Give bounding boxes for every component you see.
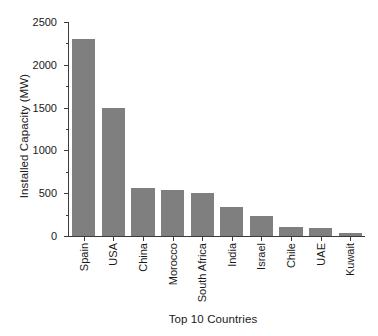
y-axis-tick: 2500 (64, 22, 68, 23)
y-axis-title: Installed Capacity (MW) (13, 29, 35, 244)
y-axis-tick: 1500 (64, 108, 68, 109)
bar (131, 188, 154, 236)
x-axis-tick-label: Spain (78, 243, 89, 271)
y-axis-tick-label: 500 (39, 187, 57, 199)
y-axis-minor-tick (66, 129, 68, 130)
x-axis-tick (291, 237, 292, 241)
y-axis-minor-tick (66, 172, 68, 173)
bar (279, 227, 302, 236)
y-axis-minor-tick (66, 215, 68, 216)
bar (250, 216, 273, 236)
x-axis-tick-label: UAE (315, 243, 326, 266)
y-axis-minor-tick (66, 43, 68, 44)
x-axis-tick (113, 237, 114, 241)
x-axis-title: Top 10 Countries (60, 313, 366, 325)
x-axis-tick-label: South Africa (197, 243, 208, 302)
y-axis-minor-tick (66, 86, 68, 87)
y-axis-tick-label: 2000 (33, 59, 57, 71)
bar (191, 193, 214, 236)
bar (72, 39, 95, 236)
bar (309, 228, 332, 236)
y-axis-tick-label: 2500 (33, 16, 57, 28)
x-axis-tick (84, 237, 85, 241)
y-axis-tick: 2000 (64, 65, 68, 66)
x-axis-tick (173, 237, 174, 241)
x-axis-tick (261, 237, 262, 241)
bar (220, 207, 243, 236)
x-axis-tick-label: Israel (256, 243, 267, 270)
x-axis-tick-label: Kuwait (345, 243, 356, 276)
x-axis-tick (350, 237, 351, 241)
bar (161, 190, 184, 236)
x-axis-tick (232, 237, 233, 241)
y-axis-tick-label: 1500 (33, 102, 57, 114)
x-axis-tick (321, 237, 322, 241)
bar (339, 233, 362, 236)
y-axis-tick: 500 (64, 193, 68, 194)
x-axis-tick-label: USA (108, 243, 119, 266)
x-axis-tick (202, 237, 203, 241)
plot-area: 05001000150020002500 SpainUSAChinaMorocc… (69, 22, 365, 236)
x-axis-tick-label: China (138, 243, 149, 272)
x-axis-tick (143, 237, 144, 241)
y-axis-tick-label: 1000 (33, 144, 57, 156)
y-axis-tick: 1000 (64, 150, 68, 151)
bar-chart-figure: Installed Capacity (MW) 0500100015002000… (0, 0, 378, 336)
y-axis-line (68, 22, 69, 237)
y-axis-tick: 0 (64, 236, 68, 237)
y-axis-tick-label: 0 (51, 230, 57, 242)
x-axis-tick-label: India (226, 243, 237, 267)
x-axis-tick-label: Chile (286, 243, 297, 268)
x-axis-tick-label: Morocco (167, 243, 178, 285)
bar (102, 108, 125, 236)
